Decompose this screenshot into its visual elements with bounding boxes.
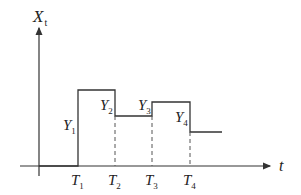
step-function-diagram: Xt t T1 T2 T3 T4 Y1 Y2 Y3 Y4: [0, 0, 301, 195]
time-mark-t2: T2: [108, 172, 121, 191]
t-axis-label: t: [279, 157, 284, 174]
time-mark-t4: T4: [183, 172, 196, 191]
level-label-y2: Y2: [100, 97, 113, 116]
level-label-y1: Y1: [63, 117, 76, 136]
time-mark-t1: T1: [71, 172, 84, 191]
level-label-y4: Y4: [175, 109, 188, 128]
time-mark-t3: T3: [145, 172, 158, 191]
level-label-y3: Y3: [138, 97, 151, 116]
y-axis-label: Xt: [32, 7, 47, 28]
